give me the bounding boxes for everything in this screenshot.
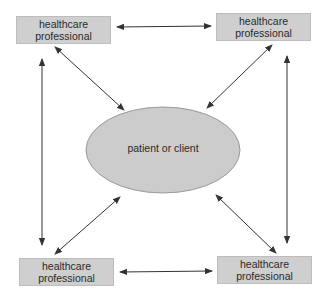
node-label-line2: professional [35,30,92,42]
center-label: patient or client [86,142,240,154]
arrow-bottom-horizontal [120,271,212,272]
node-label-line1: healthcare [42,260,91,272]
arrow-top-horizontal [117,26,211,27]
node-top-right-healthcare-professional: healthcare professional [216,13,311,41]
node-bottom-right-healthcare-professional: healthcare professional [217,256,312,284]
arrow-diagonal-top-left [55,47,124,110]
arrow-diagonal-top-right [207,45,272,108]
node-top-left-healthcare-professional: healthcare professional [16,16,111,44]
node-label-line2: professional [235,27,292,39]
arrow-diagonal-bottom-left [55,197,120,254]
node-label-line1: healthcare [239,15,288,27]
node-label-line2: professional [38,272,95,284]
arrow-diagonal-bottom-right [216,195,276,253]
node-bottom-left-healthcare-professional: healthcare professional [19,258,114,286]
node-label-line1: healthcare [240,258,289,270]
diagram-canvas: patient or client healthcare professiona… [0,0,326,305]
node-label-line1: healthcare [39,18,88,30]
node-label-line2: professional [236,270,293,282]
